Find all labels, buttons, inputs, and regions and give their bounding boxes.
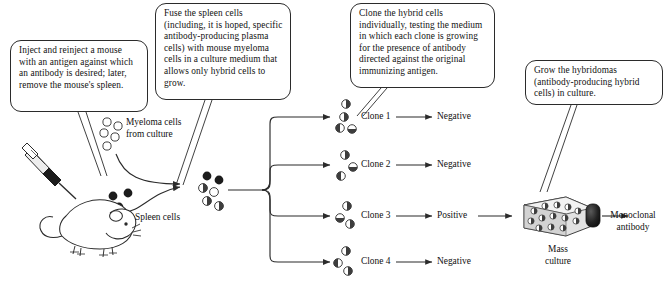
hybrid-cell-cluster — [199, 172, 224, 211]
clone-3-cells — [336, 202, 355, 229]
clone-2-result: Negative — [437, 159, 471, 170]
callout-inject: Inject and reinject a mouse with an anti… — [10, 40, 148, 112]
clone-2-cells — [337, 151, 358, 181]
clone-1-label: Clone 1 — [361, 111, 390, 122]
clone-entry-arrows — [278, 117, 330, 262]
syringe — [22, 143, 76, 199]
mass-culture-label-line2: culture — [525, 256, 591, 267]
clone-4-result: Negative — [437, 256, 471, 267]
clone-branch-bracket — [262, 117, 278, 262]
fusion-feed-arrows — [116, 154, 180, 212]
callout-clone: Clone the hybrid cells individually, tes… — [350, 3, 495, 88]
monoclonal-antibody-label-line2: antibody — [598, 222, 668, 233]
clone-1-cells — [336, 100, 357, 134]
myeloma-cell-cluster — [100, 118, 122, 150]
mouse-illustration — [40, 200, 141, 257]
spleen-cells-label: Spleen cells — [135, 212, 180, 223]
callout-fuse: Fuse the spleen cells (including, it is … — [155, 3, 291, 100]
clone-2-label: Clone 2 — [361, 159, 390, 170]
clone-3-label: Clone 3 — [361, 210, 390, 221]
clone-result-arrows — [396, 117, 432, 262]
clone-1-result: Negative — [437, 111, 471, 122]
hybridoma-process-diagram: Inject and reinject a mouse with an anti… — [0, 0, 669, 289]
callout-grow: Grow the hybridomas (antibody-producing … — [525, 60, 663, 105]
monoclonal-antibody-label-line1: Monoclonal — [598, 210, 668, 221]
myeloma-cells-label-line2: from culture — [126, 129, 173, 140]
mass-culture-label-line1: Mass — [525, 244, 591, 255]
clone-3-result: Positive — [437, 210, 467, 221]
myeloma-cells-label-line1: Myeloma cells — [126, 117, 181, 128]
clone-4-label: Clone 4 — [361, 256, 390, 267]
culture-flask — [524, 197, 600, 236]
clone-4-cells — [334, 247, 353, 276]
